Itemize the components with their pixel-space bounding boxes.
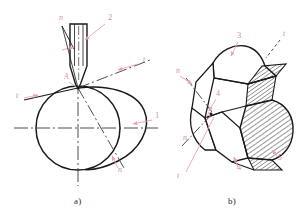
label-a-n-top: n — [59, 13, 63, 22]
label-b-part-4a: 4 — [216, 89, 220, 98]
caption-panel-b: b) — [228, 196, 236, 206]
figure-canvas: n 2 t A t 1 n — [0, 0, 306, 221]
technical-figure: n 2 t A t 1 n — [0, 0, 306, 221]
label-b-part-3: 3 — [237, 30, 241, 40]
label-a-t-left: t — [16, 91, 19, 100]
label-b-n-left: n — [176, 66, 180, 75]
leader-t-right — [118, 64, 138, 70]
label-a-point-A: A — [63, 72, 69, 81]
panel-b-leader-part-4a — [209, 99, 216, 111]
inclined-centerline-t — [78, 60, 150, 88]
edge-mid-front — [222, 106, 246, 112]
label-b-part-5: 5 — [278, 153, 282, 162]
label-b-t-lower: t — [177, 171, 180, 180]
flank-block-hatched — [240, 100, 293, 160]
leader-part-1 — [133, 120, 152, 124]
label-a-part-2: 2 — [108, 12, 112, 22]
label-b-part-4b: 4 — [237, 162, 242, 172]
label-b-n-lower: n — [183, 133, 187, 142]
flank-face-front — [205, 112, 248, 162]
bottom-wedge-hatched — [248, 158, 282, 170]
label-a-part-1: 1 — [155, 110, 159, 120]
label-a-n-bottom: n — [118, 165, 122, 174]
panel-b-leader-n-left — [180, 76, 192, 84]
panel-b-leader-t-top — [266, 40, 280, 58]
label-b-t-top: t — [283, 29, 286, 38]
caption-panel-a: a) — [74, 196, 81, 206]
label-a-t-right: t — [143, 55, 146, 64]
panel-a-group: n 2 t A t 1 n — [14, 12, 159, 186]
tangent-vector-left — [24, 88, 78, 100]
leader-part-2 — [85, 24, 105, 40]
panel-b-group: 3 t n 4 A n 4 5 t — [176, 29, 293, 180]
label-b-point-A: A — [205, 111, 211, 120]
